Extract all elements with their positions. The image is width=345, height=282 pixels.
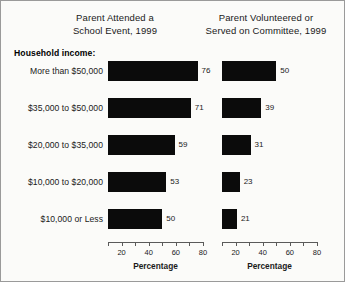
- x-axis-tick: [276, 242, 277, 246]
- x-axis-tick-label: 40: [253, 248, 273, 257]
- bar-value-label: 23: [244, 172, 253, 192]
- category-label: $10,000 to $20,000: [5, 177, 103, 187]
- x-axis-tick-label: 60: [280, 248, 300, 257]
- bar: [108, 61, 198, 81]
- x-axis-title: Percentage: [108, 261, 203, 271]
- x-axis-tick: [176, 242, 177, 246]
- x-axis-tick: [249, 242, 250, 246]
- x-axis-tick: [135, 242, 136, 246]
- x-axis-tick: [263, 242, 264, 246]
- chart-figure: Parent Attended a School Event, 1999 Par…: [0, 0, 345, 282]
- bar: [222, 98, 261, 118]
- x-axis-tick: [203, 242, 204, 246]
- bar-value-label: 21: [241, 209, 250, 229]
- plot-area-right: 503931232120406080Percentage: [222, 1, 318, 282]
- bar: [108, 135, 175, 155]
- bar: [108, 172, 166, 192]
- bar: [222, 135, 251, 155]
- bar: [222, 209, 237, 229]
- category-label: $10,000 or Less: [5, 214, 103, 224]
- bar-value-label: 39: [265, 98, 274, 118]
- bar-value-label: 50: [280, 61, 289, 81]
- bar: [108, 98, 191, 118]
- bar-value-label: 53: [170, 172, 179, 192]
- plot-area-left: 767159535020406080Percentage: [108, 1, 204, 282]
- x-axis-tick-label: 20: [112, 248, 132, 257]
- bar: [108, 209, 162, 229]
- bar: [222, 172, 240, 192]
- x-axis-tick-label: 40: [139, 248, 159, 257]
- bar-value-label: 50: [166, 209, 175, 229]
- x-axis-tick: [236, 242, 237, 246]
- group-heading: Household income:: [14, 48, 95, 58]
- bar-value-label: 71: [195, 98, 204, 118]
- x-axis-tick: [108, 242, 109, 246]
- x-axis-tick-label: 20: [226, 248, 246, 257]
- x-axis-tick: [317, 242, 318, 246]
- x-axis-tick-label: 80: [193, 248, 213, 257]
- category-label: $35,000 to $50,000: [5, 103, 103, 113]
- x-axis-tick: [222, 242, 223, 246]
- bar: [222, 61, 276, 81]
- x-axis-tick-label: 80: [307, 248, 327, 257]
- x-axis-tick: [303, 242, 304, 246]
- x-axis-title: Percentage: [222, 261, 317, 271]
- category-label: More than $50,000: [5, 66, 103, 76]
- x-axis-tick: [290, 242, 291, 246]
- category-label: $20,000 to $35,000: [5, 140, 103, 150]
- x-axis-tick-label: 60: [166, 248, 186, 257]
- bar-value-label: 59: [179, 135, 188, 155]
- x-axis-tick: [189, 242, 190, 246]
- bar-value-label: 31: [255, 135, 264, 155]
- x-axis-tick: [149, 242, 150, 246]
- bar-value-label: 76: [202, 61, 211, 81]
- x-axis-tick: [162, 242, 163, 246]
- x-axis-tick: [122, 242, 123, 246]
